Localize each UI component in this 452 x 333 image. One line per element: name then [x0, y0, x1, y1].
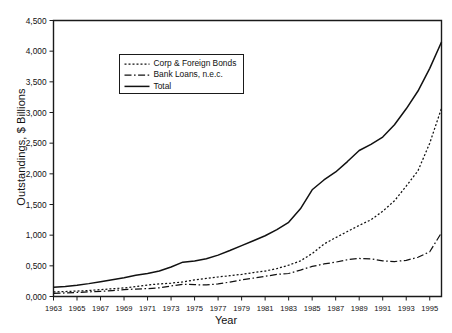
x-tick-label: 1963 — [45, 304, 62, 313]
y-tick-label: 0,500 — [26, 261, 47, 271]
y-tick-label: 2,500 — [26, 138, 47, 148]
y-tick-label: 4,000 — [26, 46, 47, 56]
y-tick-label: 3,000 — [26, 108, 47, 118]
x-tick-label: 1973 — [163, 304, 180, 313]
chart-figure: Outstandings, $ Billions Year 0,0000,500… — [0, 0, 452, 333]
y-tick-label: 1,500 — [26, 200, 47, 210]
x-tick-label: 1971 — [139, 304, 156, 313]
legend-label-2: Total — [154, 81, 172, 91]
x-tick-label: 1979 — [233, 304, 250, 313]
y-tick-label: 0,000 — [26, 292, 47, 302]
x-tick-label: 1989 — [351, 304, 368, 313]
x-tick-label: 1975 — [186, 304, 203, 313]
y-axis-ticks: 0,0000,5001,0001,5002,0002,5003,0003,500… — [26, 16, 54, 302]
y-tick-label: 3,500 — [26, 77, 47, 87]
x-tick-label: 1987 — [327, 304, 344, 313]
y-tick-label: 4,500 — [26, 16, 47, 26]
x-tick-label: 1995 — [421, 304, 438, 313]
y-tick-label: 1,000 — [26, 230, 47, 240]
x-tick-label: 1985 — [304, 304, 321, 313]
x-tick-label: 1993 — [398, 304, 415, 313]
x-tick-label: 1965 — [69, 304, 86, 313]
x-tick-label: 1967 — [92, 304, 109, 313]
series-lines — [54, 42, 442, 293]
chart-legend: Corp & Foreign BondsBank Loans, n.e.c.To… — [120, 55, 244, 94]
x-axis-ticks: 1963196519671969197119731975197719791981… — [45, 297, 438, 313]
plot-area: 0,0000,5001,0001,5002,0002,5003,0003,500… — [0, 0, 452, 333]
series-line-2 — [54, 42, 442, 287]
legend-label-0: Corp & Foreign Bonds — [154, 58, 237, 68]
legend-label-1: Bank Loans, n.e.c. — [154, 69, 223, 79]
series-line-1 — [54, 233, 442, 294]
x-tick-label: 1969 — [116, 304, 133, 313]
plot-frame — [54, 21, 442, 297]
x-tick-label: 1981 — [257, 304, 274, 313]
x-tick-label: 1977 — [210, 304, 227, 313]
x-tick-label: 1983 — [280, 304, 297, 313]
x-tick-label: 1991 — [374, 304, 391, 313]
y-tick-label: 2,000 — [26, 169, 47, 179]
